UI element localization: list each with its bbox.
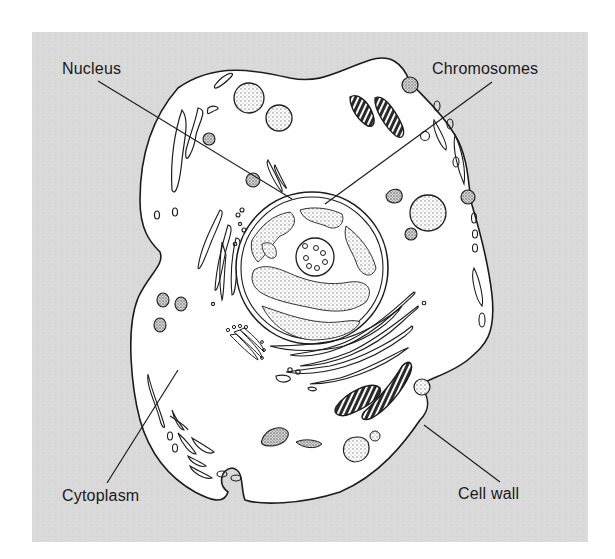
nucleus: [236, 192, 388, 344]
membrane-knob: [414, 379, 430, 395]
membrane-knob: [402, 77, 418, 93]
granule: [370, 431, 380, 441]
vacuole: [234, 83, 264, 113]
cell-illustration: [0, 0, 615, 559]
label-cytoplasm: Cytoplasm: [62, 488, 139, 504]
vacuole: [266, 105, 292, 131]
vacuole: [410, 195, 446, 231]
label-nucleus: Nucleus: [62, 61, 121, 77]
membrane-knob: [461, 190, 475, 204]
granule: [154, 318, 166, 332]
cell-diagram: Nucleus Chromosomes Cytoplasm Cell wall: [0, 0, 615, 559]
granule: [203, 133, 215, 145]
granule: [157, 293, 169, 307]
granule: [405, 228, 417, 240]
granule: [175, 297, 187, 311]
label-cell-wall: Cell wall: [458, 486, 519, 502]
nucleolus: [296, 238, 334, 276]
label-chromosomes: Chromosomes: [432, 61, 538, 77]
vacuole: [343, 437, 369, 462]
